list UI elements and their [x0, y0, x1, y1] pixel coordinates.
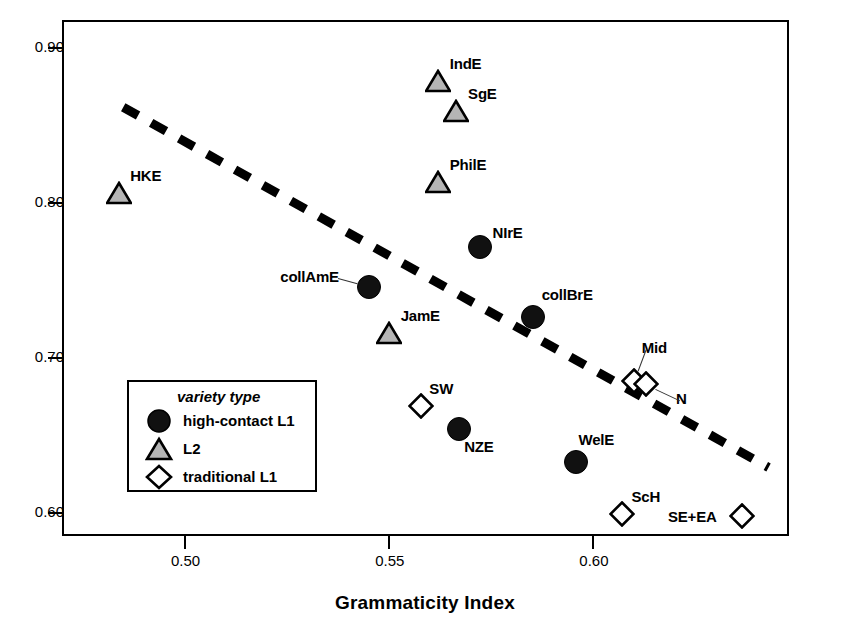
x-axis-title: Grammaticity Index — [0, 592, 850, 614]
legend-item-label: high-contact L1 — [183, 412, 295, 429]
point-label: JamE — [401, 307, 440, 324]
legend-item-label: L2 — [183, 440, 201, 457]
legend-triangle-icon — [145, 436, 175, 462]
marker-triangle — [425, 69, 451, 93]
point-label: NZE — [464, 438, 493, 455]
x-tick-label: 0.60 — [564, 552, 624, 569]
marker-diamond — [633, 371, 659, 397]
chart-canvas: Transparency Index 0.600.700.800.90 0.50… — [0, 0, 850, 630]
marker-triangle — [106, 181, 132, 205]
point-label: SE+EA — [668, 508, 717, 525]
point-label: collBrE — [542, 286, 593, 303]
y-tick-label: 0.60 — [18, 503, 64, 520]
marker-circle — [521, 305, 545, 329]
point-label: HKE — [130, 167, 161, 184]
point-label: SgE — [468, 85, 497, 102]
legend-title: variety type — [177, 388, 260, 405]
x-tick-label: 0.55 — [360, 552, 420, 569]
marker-triangle — [425, 170, 451, 194]
label-leader-line — [338, 278, 358, 285]
point-label: Mid — [642, 339, 667, 356]
marker-triangle — [376, 321, 402, 345]
y-tick-label: 0.90 — [18, 38, 64, 55]
point-label: PhilE — [450, 156, 487, 173]
point-label: collAmE — [280, 268, 339, 285]
x-tick-mark — [592, 536, 594, 549]
marker-triangle — [443, 99, 469, 123]
point-label: SW — [429, 380, 453, 397]
marker-circle — [564, 450, 588, 474]
legend-diamond-icon — [145, 464, 175, 490]
point-label: ScH — [632, 488, 661, 505]
legend-item-label: traditional L1 — [183, 468, 277, 485]
marker-circle — [468, 235, 492, 259]
marker-circle — [357, 275, 381, 299]
plot-area: NIrEcollAmEcollBrENZEWelEIndESgEPhilEHKE… — [62, 20, 789, 536]
point-label: WelE — [579, 431, 615, 448]
x-tick-mark — [388, 536, 390, 549]
x-tick-mark — [184, 536, 186, 549]
point-label: IndE — [450, 55, 482, 72]
legend: variety type high-contact L1L2traditiona… — [127, 380, 317, 492]
legend-circle-icon — [145, 408, 175, 434]
x-tick-label: 0.50 — [156, 552, 216, 569]
y-tick-label: 0.80 — [18, 193, 64, 210]
marker-diamond — [729, 503, 755, 529]
y-tick-label: 0.70 — [18, 348, 64, 365]
point-label: NIrE — [493, 224, 523, 241]
